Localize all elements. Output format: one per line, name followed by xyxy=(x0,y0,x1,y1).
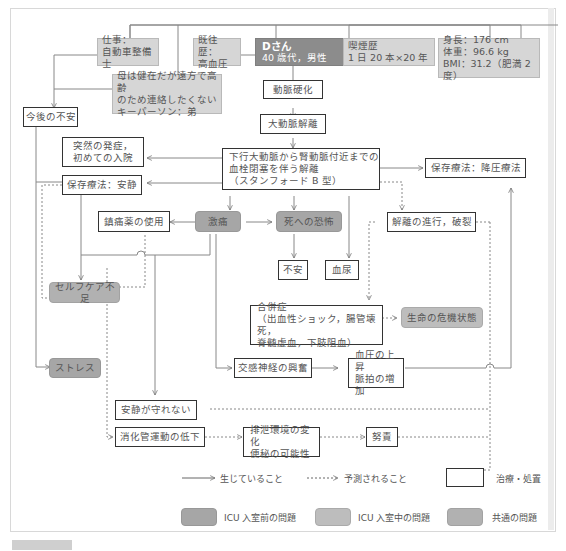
smoking-history-box: 喫煙歴 1 日 20 本×20 年 xyxy=(343,38,435,66)
medical-history-box: 既往歴： 高血圧 xyxy=(193,38,241,66)
conservative-rest-box: 保存療法：安静 xyxy=(62,175,142,195)
aortic-dissection-box: 大動脈解離 xyxy=(260,114,326,134)
bp-rise-box: 血圧の上昇 脈拍の増加 xyxy=(348,358,404,388)
future-anxiety-box: 今後の不安 xyxy=(23,107,78,127)
severe-pain-box: 激痛 xyxy=(195,211,241,232)
occupation-box: 仕事： 自動車整備士 xyxy=(97,38,159,66)
legend-solid-label: 生じていること xyxy=(220,472,283,485)
arteriosclerosis-box: 動脈硬化 xyxy=(263,80,323,99)
patient-profile: 40 歳代，男性 xyxy=(262,52,327,64)
life-crisis-box: 生命の危機状態 xyxy=(401,307,483,328)
complications-box: 合併症 （出血性ショック，腸管壊死， 脊髄虚血，下肢阻血） xyxy=(250,305,383,345)
sympathetic-box: 交感神経の興奮 xyxy=(234,358,312,378)
gi-decrease-box: 消化管運動の低下 xyxy=(115,427,205,447)
dissection-detail-box: 下行大動脈から腎動脈付近までの 血栓閉塞を伴う解離 （スタンフォード B 型） xyxy=(222,148,380,190)
family-info-box: 母は健在だが遠方で高齢 のため連絡したくない キーパーソン：弟 xyxy=(112,74,222,114)
body-measurements-box: 身長：176 cm 体重：96.6 kg BMI：31.2（肥満 2 度） xyxy=(438,38,540,78)
progression-box: 解離の進行，破裂 xyxy=(387,212,476,232)
legend-in-icu-label: ICU 入室中の問題 xyxy=(358,511,430,524)
sudden-onset-box: 突然の発症， 初めての入院 xyxy=(62,137,144,167)
anxiety-box: 不安 xyxy=(278,260,308,280)
legend-common-swatch xyxy=(447,508,483,526)
caption-bar xyxy=(12,540,72,550)
patient-name: Dさん xyxy=(262,40,291,52)
analgesic-box: 鎮痛薬の使用 xyxy=(98,211,170,232)
legend-treatment-swatch xyxy=(446,468,484,487)
legend-in-icu-swatch xyxy=(315,508,351,526)
excretion-change-box: 排泄環境の変化 便秘の可能性 xyxy=(243,427,320,457)
legend-pre-icu-swatch xyxy=(181,508,217,526)
cannot-rest-box: 安静が守れない xyxy=(115,400,197,420)
self-care-deficit-box: セルフケア不足 xyxy=(49,282,120,303)
conservative-bp-box: 保存療法：降圧療法 xyxy=(425,158,526,178)
legend-dashed-label: 予測されること xyxy=(344,472,407,485)
legend-pre-icu-label: ICU 入室前の問題 xyxy=(224,511,296,524)
stress-box: ストレス xyxy=(49,358,101,378)
legend-common-label: 共通の問題 xyxy=(492,511,537,524)
legend-treatment-label: 治療・処置 xyxy=(496,472,541,485)
fear-of-death-box: 死への恐怖 xyxy=(276,211,342,232)
hematuria-box: 血尿 xyxy=(325,260,359,280)
straining-box: 努責 xyxy=(366,427,398,447)
patient-box: Dさん 40 歳代，男性 xyxy=(255,38,345,66)
